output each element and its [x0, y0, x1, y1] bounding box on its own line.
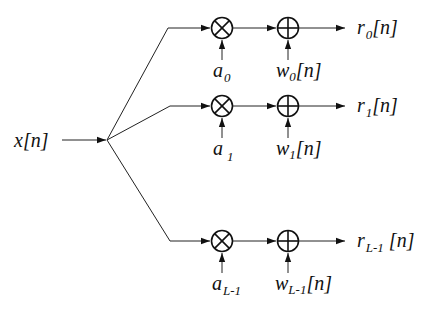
- branch-1: a1 w1[n] r1[n]: [212, 94, 398, 164]
- branch-0: a0 w0[n] r0[n]: [212, 16, 398, 85]
- input-label: x[n]: [13, 129, 48, 151]
- multiplier-node-icon: [212, 96, 233, 117]
- output-label: r1[n]: [357, 94, 398, 120]
- output-label: rL-1 [n]: [357, 229, 414, 255]
- fanout-line-0: [107, 28, 210, 140]
- gain-label: a0: [213, 59, 231, 85]
- gain-label: aL-1: [212, 272, 241, 298]
- noise-label: wL-1[n]: [275, 272, 332, 297]
- adder-node-icon: [278, 18, 299, 39]
- adder-node-icon: [278, 96, 299, 117]
- fanout-line-L-1: [107, 140, 210, 241]
- noise-label: w0[n]: [276, 59, 321, 84]
- adder-node-icon: [278, 231, 299, 252]
- output-label: r0[n]: [357, 16, 398, 42]
- multiplier-node-icon: [212, 18, 233, 39]
- signal-flow-diagram: x[n] a0 w0[n] r0[n] a1: [0, 0, 434, 316]
- gain-label: a1: [213, 137, 234, 164]
- noise-label: w1[n]: [276, 137, 321, 162]
- multiplier-node-icon: [212, 231, 233, 252]
- branch-L-1: aL-1 wL-1[n] rL-1 [n]: [212, 229, 415, 298]
